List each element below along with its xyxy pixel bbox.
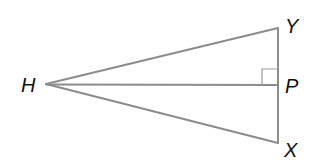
label-y: Y <box>285 15 300 37</box>
label-h: H <box>21 74 36 96</box>
segment-hp <box>46 85 278 86</box>
label-x: X <box>283 139 298 161</box>
segment-hy <box>46 28 278 84</box>
segment-hx <box>46 84 278 143</box>
right-angle-mark <box>262 69 278 85</box>
label-p: P <box>285 75 299 97</box>
triangle-diagram: H Y P X <box>0 0 321 166</box>
